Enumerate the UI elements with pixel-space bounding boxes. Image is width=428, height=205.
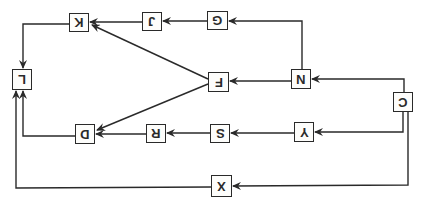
edge-n-g	[229, 21, 302, 69]
edge-d-l	[23, 91, 75, 136]
flow-diagram: C N G J K L F Y S R D X	[0, 0, 428, 205]
node-r: R	[146, 124, 166, 143]
node-j: J	[142, 12, 162, 31]
node-d: D	[75, 124, 95, 144]
node-x-label: X	[217, 180, 226, 193]
edge-c-n	[312, 79, 404, 92]
node-f: F	[208, 72, 229, 92]
node-y: Y	[294, 122, 314, 142]
node-r-label: R	[151, 127, 160, 140]
node-l: L	[12, 69, 32, 90]
node-s-label: S	[216, 127, 225, 140]
edge-f-k	[92, 25, 208, 79]
node-j-label: J	[148, 15, 155, 28]
node-n-label: N	[296, 73, 305, 86]
edge-c-y	[315, 112, 403, 132]
node-k-label: K	[74, 16, 83, 29]
edge-c-x	[233, 112, 408, 186]
node-s: S	[210, 124, 230, 143]
node-x: X	[211, 175, 232, 197]
node-g-label: G	[212, 14, 222, 27]
edge-k-l	[23, 24, 69, 68]
node-f-label: F	[215, 76, 223, 89]
node-c: C	[393, 92, 413, 112]
node-y-label: Y	[300, 126, 309, 139]
node-l-label: L	[18, 73, 26, 86]
node-k: K	[69, 13, 89, 32]
node-n: N	[291, 69, 311, 89]
node-g: G	[207, 11, 228, 30]
node-d-label: D	[80, 128, 89, 141]
edge-x-l	[16, 91, 211, 188]
node-c-label: C	[398, 96, 407, 109]
